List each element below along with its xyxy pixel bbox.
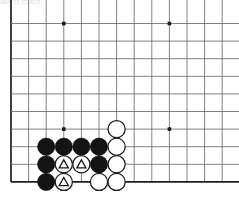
black-stone-icon bbox=[38, 138, 55, 155]
white-stone-icon bbox=[108, 121, 125, 138]
white-stone-triangle[interactable] bbox=[55, 156, 72, 173]
white-stone-triangle[interactable] bbox=[73, 156, 90, 173]
black-stone[interactable] bbox=[90, 138, 107, 155]
white-stone-icon bbox=[90, 173, 107, 190]
white-stone-icon bbox=[55, 173, 72, 190]
white-stone-icon bbox=[108, 138, 125, 155]
black-stone[interactable] bbox=[38, 156, 55, 173]
diagram-root: 図4 白先黒死 bbox=[0, 0, 239, 204]
black-stone-icon bbox=[38, 173, 55, 190]
black-stone-icon bbox=[90, 138, 107, 155]
white-stone-icon bbox=[73, 156, 90, 173]
go-board[interactable] bbox=[0, 0, 239, 204]
black-stone-icon bbox=[38, 156, 55, 173]
black-stone[interactable] bbox=[38, 138, 55, 155]
black-stone[interactable] bbox=[90, 156, 107, 173]
white-stone[interactable] bbox=[90, 173, 107, 190]
white-stone[interactable] bbox=[108, 121, 125, 138]
white-stone-icon bbox=[55, 156, 72, 173]
white-stone[interactable] bbox=[108, 156, 125, 173]
black-stone[interactable] bbox=[55, 138, 72, 155]
black-stone-icon bbox=[55, 138, 72, 155]
white-stone[interactable] bbox=[108, 138, 125, 155]
star-point-icon bbox=[168, 127, 172, 131]
black-stone[interactable] bbox=[73, 138, 90, 155]
star-point-icon bbox=[62, 127, 66, 131]
go-board-canvas[interactable] bbox=[0, 0, 239, 204]
star-point-icon bbox=[62, 22, 66, 26]
white-stone-icon bbox=[108, 173, 125, 190]
white-stone[interactable] bbox=[108, 173, 125, 190]
black-stone-icon bbox=[90, 156, 107, 173]
black-stone-icon bbox=[73, 138, 90, 155]
black-stone[interactable] bbox=[38, 173, 55, 190]
white-stone-icon bbox=[108, 156, 125, 173]
star-point-icon bbox=[168, 22, 172, 26]
white-stone-triangle[interactable] bbox=[55, 173, 72, 190]
